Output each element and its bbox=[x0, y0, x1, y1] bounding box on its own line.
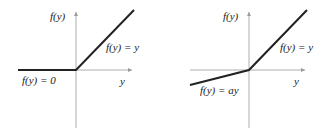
x-axis-label: y bbox=[294, 76, 299, 87]
relu-diagram bbox=[18, 10, 134, 128]
negative-label: f(y) = 0 bbox=[22, 75, 56, 86]
negative-label: f(y) = ay bbox=[200, 85, 239, 96]
y-axis-label: f(y) bbox=[223, 11, 238, 22]
positive-label: f(y) = y bbox=[280, 42, 313, 53]
x-axis-label: y bbox=[120, 76, 125, 87]
y-axis-label: f(y) bbox=[50, 11, 65, 22]
leaky-relu-diagram bbox=[190, 10, 307, 128]
positive-label: f(y) = y bbox=[106, 42, 139, 53]
